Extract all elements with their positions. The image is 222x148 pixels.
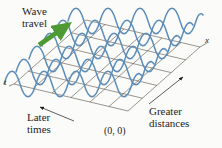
greater-distances-label: Greater distances [149, 106, 189, 130]
later-times-label: Later times [27, 112, 51, 136]
origin-label: (0, 0) [104, 126, 126, 137]
wave-travel-label: Wave travel [22, 6, 47, 30]
greater-distances-arrow [149, 77, 183, 104]
wave-curve-row-5 [68, 8, 203, 34]
grid-lines-constant-position [14, 20, 200, 111]
wave-propagation-figure: Wave travel Later times Greater distance… [0, 0, 222, 148]
x-axis-label: x [205, 36, 209, 46]
t-axis-label: t [4, 78, 7, 88]
